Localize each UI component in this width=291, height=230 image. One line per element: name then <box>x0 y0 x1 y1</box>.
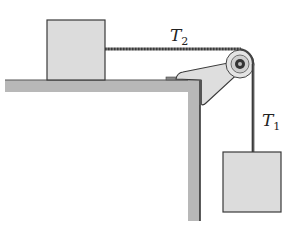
label-t1: T1 <box>262 110 280 133</box>
block-on-table <box>47 20 105 80</box>
rope-vertical <box>252 64 255 153</box>
pulley-diagram: T2 T1 <box>0 0 291 230</box>
table-top <box>5 80 200 92</box>
rope-horizontal <box>105 48 241 51</box>
table-leg <box>188 80 200 221</box>
hanging-block <box>223 152 281 212</box>
label-t2: T2 <box>170 25 188 48</box>
table <box>5 80 200 221</box>
